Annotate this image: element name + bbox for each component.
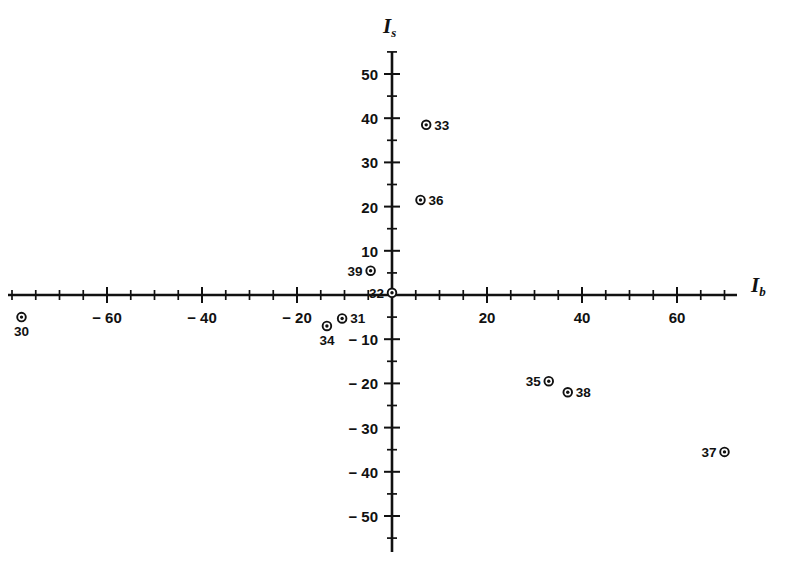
- data-point-marker: [388, 288, 397, 297]
- x-tick-label: − 40: [187, 309, 217, 326]
- data-point-marker: [544, 377, 553, 386]
- data-point-marker: [422, 121, 431, 130]
- data-point-marker: [338, 314, 347, 323]
- marker-dot: [340, 317, 343, 320]
- data-point-marker: [323, 322, 332, 331]
- data-point-label: 38: [576, 385, 591, 400]
- y-tick-label: 50: [361, 66, 378, 83]
- y-tick-label: 30: [361, 154, 378, 171]
- marker-dot: [369, 269, 372, 272]
- marker-dot: [425, 123, 428, 126]
- y-tick-label: − 40: [348, 463, 378, 480]
- x-tick-label: 20: [479, 309, 496, 326]
- x-axis-title: Ib: [751, 273, 766, 298]
- data-point-label: 32: [369, 285, 384, 300]
- data-point-marker: [563, 388, 572, 397]
- data-point-label: 30: [14, 324, 29, 339]
- marker-dot: [419, 198, 422, 201]
- y-tick-label: − 50: [348, 508, 378, 525]
- x-tick-label: 40: [574, 309, 591, 326]
- x-axis-title-subscript: b: [759, 284, 766, 299]
- marker-dot: [390, 291, 393, 294]
- y-tick-label: − 30: [348, 419, 378, 436]
- data-point-marker: [17, 313, 26, 322]
- marker-dot: [723, 450, 726, 453]
- marker-dot: [325, 324, 328, 327]
- data-point-marker: [416, 196, 425, 205]
- y-tick-label: 10: [361, 242, 378, 259]
- data-point-label: 37: [701, 444, 716, 459]
- marker-dot: [547, 379, 550, 382]
- y-tick-label: 40: [361, 110, 378, 127]
- data-point-label: 39: [348, 263, 363, 278]
- plot-canvas: [0, 0, 796, 565]
- y-tick-label: − 20: [348, 375, 378, 392]
- y-axis-title: Is: [383, 14, 396, 39]
- scatter-plot-figure: − 60− 40− 202040605040302010− 10− 20− 30…: [0, 0, 796, 565]
- x-tick-label: − 60: [92, 309, 122, 326]
- x-tick-label: 60: [669, 309, 686, 326]
- data-point-label: 33: [434, 117, 449, 132]
- data-point-label: 36: [429, 192, 444, 207]
- x-tick-label: − 20: [282, 309, 312, 326]
- y-tick-label: − 10: [348, 331, 378, 348]
- data-point-label: 35: [526, 374, 541, 389]
- data-point-label: 31: [350, 311, 365, 326]
- data-point-marker: [366, 266, 375, 275]
- marker-dot: [566, 391, 569, 394]
- y-axis-title-subscript: s: [391, 25, 396, 40]
- data-point-marker: [720, 448, 729, 457]
- y-tick-label: 20: [361, 198, 378, 215]
- data-point-label: 34: [319, 333, 334, 348]
- marker-dot: [20, 315, 23, 318]
